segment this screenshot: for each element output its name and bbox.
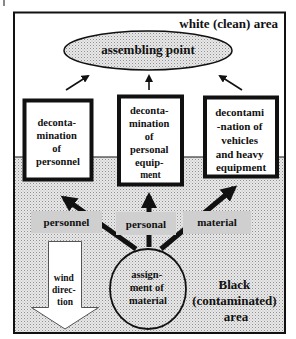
- flow-label-personal: personal: [116, 212, 176, 235]
- svg-text:assign- ment of ma: assign- ment of material: [129, 269, 167, 306]
- svg-text:decontami -nation of: decontami -nation of vehicles and heavy …: [215, 106, 267, 173]
- station-personal-equipment: deconta- mination of personal equip- men…: [119, 97, 182, 185]
- decontamination-layout-diagram: white (clean) area assembling point deco…: [0, 0, 296, 339]
- station-personnel: deconta- mination of personnel: [25, 101, 92, 180]
- arrow-vehicles-to-assembly: [220, 76, 242, 90]
- assignment-of-material: assign- ment of material: [110, 249, 186, 329]
- clean-zone-label: white (clean) area: [179, 16, 278, 31]
- station-vehicles-heavy-equipment: decontami -nation of vehicles and heavy …: [205, 98, 277, 177]
- svg-text:material: material: [197, 216, 237, 228]
- flow-label-material: material: [183, 211, 251, 234]
- svg-text:personnel: personnel: [44, 216, 90, 228]
- assembling-point: assembling point: [64, 31, 232, 70]
- arrow-personnel-to-assembly: [66, 76, 88, 90]
- flow-label-personnel: personnel: [31, 211, 102, 233]
- svg-text:personal: personal: [126, 218, 166, 230]
- assembling-point-label: assembling point: [101, 42, 195, 57]
